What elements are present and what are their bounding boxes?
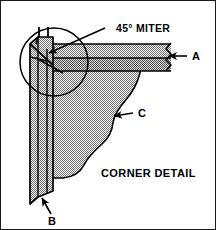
- miter-callout-label: 45° MITER: [116, 22, 170, 34]
- figure-title: CORNER DETAIL: [101, 167, 196, 179]
- key-a-label: A: [192, 50, 200, 62]
- key-c-label: C: [138, 107, 146, 119]
- scalloped-bracket: [47, 61, 140, 178]
- corner-detail-figure: 45° MITER A C B CORNER DETAIL: [0, 0, 216, 230]
- corner-detail-drawing: 45° MITER A C B CORNER DETAIL: [1, 1, 216, 230]
- horizontal-beam: [36, 43, 171, 71]
- key-b-label: B: [48, 215, 56, 227]
- key-a-callout: A: [169, 50, 200, 62]
- key-b-callout: B: [42, 198, 56, 227]
